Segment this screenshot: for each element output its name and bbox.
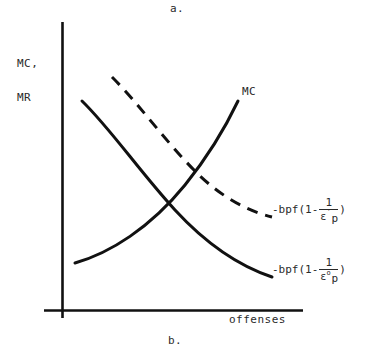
p-symbol-prime: p xyxy=(332,212,339,225)
fraction-denominator-prime: ε´p xyxy=(319,210,338,224)
epsilon-superscript-prime: ´ xyxy=(326,209,330,217)
p-symbol-zero: p xyxy=(332,272,339,285)
curve-bpf-epsilon-zero xyxy=(82,101,272,277)
expression-label-epsilon-prime: -bpf(1- 1 ε´p ) xyxy=(272,196,346,222)
x-axis-label: offenses xyxy=(229,313,286,326)
expression-close-prime: ) xyxy=(339,204,346,215)
expression-lead-zero: -bpf(1- xyxy=(272,264,318,275)
figure-caption-bottom: b. xyxy=(168,334,182,347)
curve-bpf-epsilon-prime xyxy=(112,77,272,217)
fraction-prime: 1 ε´p xyxy=(319,197,338,223)
expression-label-epsilon-zero: -bpf(1- 1 εop ) xyxy=(272,256,346,282)
economics-figure: a. MC, MR MC -bpf(1- 1 ε´p ) -bpf(1- 1 ε… xyxy=(0,0,380,354)
epsilon-superscript-zero: o xyxy=(326,269,330,277)
expression-lead-prime: -bpf(1- xyxy=(272,204,318,215)
expression-close-zero: ) xyxy=(339,264,346,275)
plot-area xyxy=(0,0,380,354)
fraction-denominator-zero: εop xyxy=(319,270,338,284)
fraction-zero: 1 εop xyxy=(319,257,338,283)
fraction-numerator-prime: 1 xyxy=(323,197,334,209)
curve-mc xyxy=(75,101,238,263)
fraction-numerator-zero: 1 xyxy=(323,257,334,269)
curve-label-mc: MC xyxy=(242,85,256,98)
